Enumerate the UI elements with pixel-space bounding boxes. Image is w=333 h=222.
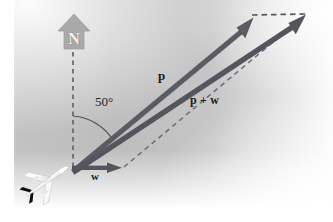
vector-p-label: p [158,68,165,84]
vector-diagram-figure: 50° p w p + w N [0,0,333,222]
angle-label: 50° [95,94,113,110]
diagram-canvas [0,0,333,222]
vector-w-label: w [91,170,99,182]
north-letter-label: N [63,30,85,48]
vector-p-plus-w-label: p + w [190,93,219,108]
